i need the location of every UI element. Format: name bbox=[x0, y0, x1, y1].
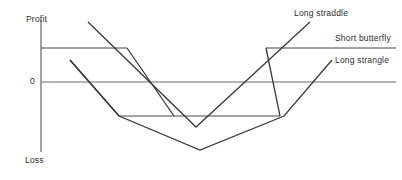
payoff-plot-svg bbox=[0, 0, 402, 180]
y-axis-zero-label: 0 bbox=[30, 76, 35, 86]
series-label-long-strangle: Long strangle bbox=[335, 55, 389, 65]
series-label-long-straddle: Long straddle bbox=[294, 8, 348, 18]
options-payoff-diagram: Profit 0 Loss Long straddle Short butter… bbox=[0, 0, 402, 180]
y-axis-profit-label: Profit bbox=[26, 14, 47, 24]
series-long-straddle bbox=[88, 22, 310, 127]
series-label-short-butterfly: Short butterfly bbox=[335, 33, 391, 43]
y-axis-loss-label: Loss bbox=[25, 155, 44, 165]
series-short-butterfly-outer-left bbox=[174, 116, 196, 127]
series-long-strangle bbox=[70, 60, 332, 150]
